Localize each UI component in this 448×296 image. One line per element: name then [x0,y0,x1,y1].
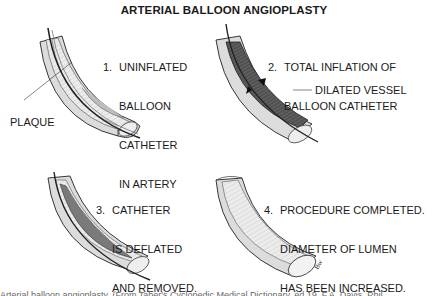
plaque-callout: PLAQUE [10,116,55,129]
figure-caption: Arterial balloon angioplasty. (From Tabe… [0,288,448,296]
panel-2-label: 2.TOTAL INFLATION OF BALLOON CATHETER [268,35,398,126]
dilated-vessel-callout: DILATED VESSEL [315,84,407,97]
panel-3-label: 3.CATHETER IS DEFLATED AND REMOVED. [96,178,197,296]
panel-4-label: 4.PROCEDURE COMPLETED. DIAMETER OF LUMEN… [264,178,425,296]
